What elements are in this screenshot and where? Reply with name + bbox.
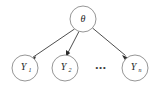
diagram-canvas: θ Y 1 Y 2 ••• Y n: [0, 0, 156, 85]
edge-theta-to-y2: [67, 31, 79, 54]
node-y2[interactable]: Y 2: [52, 55, 78, 81]
node-yn[interactable]: Y n: [122, 55, 148, 81]
ellipsis-label: •••: [95, 63, 106, 73]
graphical-model-diagram: θ Y 1 Y 2 ••• Y n: [0, 0, 156, 85]
node-yn-subscript: n: [139, 67, 142, 73]
node-y1[interactable]: Y 1: [12, 55, 38, 81]
node-theta-label: θ: [81, 13, 86, 24]
edge-group: [30, 28, 128, 62]
node-y2-subscript: 2: [69, 67, 72, 73]
node-y1-subscript: 1: [29, 67, 32, 73]
edge-theta-to-yn: [93, 28, 126, 56]
node-theta[interactable]: θ: [70, 6, 96, 32]
